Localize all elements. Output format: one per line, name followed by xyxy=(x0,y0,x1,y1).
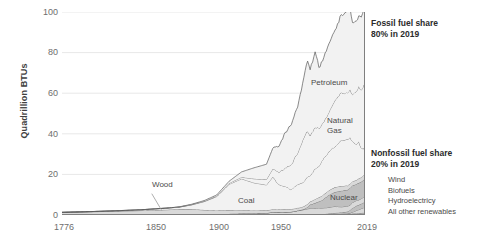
y-tick-0: 0 xyxy=(24,211,58,220)
nonfossil-item-hydro: Hydroelectricy xyxy=(388,196,456,207)
x-tick-1950: 1950 xyxy=(259,222,303,232)
stacked-area-svg xyxy=(62,12,365,215)
series-label-petroleum: Petroleum xyxy=(311,78,347,88)
y-tick-60: 60 xyxy=(24,89,58,98)
x-tick-2019: 2019 xyxy=(345,222,389,232)
nonfossil-source-list: Wind Biofuels Hydroelectricy All other r… xyxy=(388,175,456,217)
series-label-nuclear: Nuclear xyxy=(330,193,358,203)
x-tick-1900: 1900 xyxy=(197,222,241,232)
x-tick-1850: 1850 xyxy=(134,222,178,232)
y-tick-20: 20 xyxy=(24,170,58,179)
y-tick-80: 80 xyxy=(24,48,58,57)
series-label-natural-gas: Natural Gas xyxy=(327,116,353,136)
annotation-fossil-share: Fossil fuel share 80% in 2019 xyxy=(371,18,438,40)
y-tick-40: 40 xyxy=(24,130,58,139)
nonfossil-item-wind: Wind xyxy=(388,175,456,186)
nonfossil-item-other: All other renewables xyxy=(388,207,456,218)
y-tick-100: 100 xyxy=(24,8,58,17)
series-label-coal: Coal xyxy=(238,196,254,206)
nonfossil-item-biofuels: Biofuels xyxy=(388,186,456,197)
annotation-nonfossil-share: Nonfossil fuel share 20% in 2019 xyxy=(371,148,452,170)
y-axis-ticks: 100 80 60 40 20 0 xyxy=(22,0,58,242)
series-label-wood: Wood xyxy=(152,180,173,190)
x-tick-1776: 1776 xyxy=(42,222,86,232)
plot-area xyxy=(62,12,365,215)
chart-figure: Quadrillion BTUs 100 80 60 40 20 0 1776 … xyxy=(0,0,478,242)
